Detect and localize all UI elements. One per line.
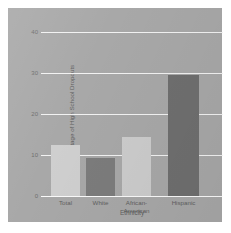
- bar: [122, 137, 151, 196]
- y-tick-label-30: 30: [31, 70, 38, 76]
- x-axis-label: Ethnicity: [41, 210, 223, 216]
- y-tick-label-0: 0: [35, 193, 38, 199]
- x-tick-label: Hispanic: [172, 199, 196, 207]
- bar: [51, 145, 80, 196]
- plot-area: 010203040 TotalWhiteAfrican- AmericanHis…: [41, 32, 223, 196]
- bar: [86, 158, 115, 196]
- bar-series: [41, 32, 223, 196]
- bar: [168, 75, 199, 196]
- chart-panel: Percentage of High School Dropouts 01020…: [8, 8, 222, 222]
- y-tick-label-40: 40: [31, 29, 38, 35]
- y-tick-label-20: 20: [31, 111, 38, 117]
- x-tick-label: White: [93, 199, 109, 207]
- x-tick-label: Total: [59, 199, 72, 207]
- chart-figure: Percentage of High School Dropouts 01020…: [0, 0, 231, 233]
- gridline-0: [41, 196, 223, 197]
- y-tick-label-10: 10: [31, 152, 38, 158]
